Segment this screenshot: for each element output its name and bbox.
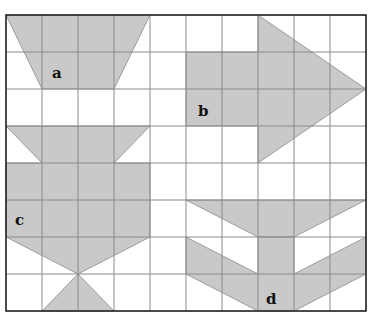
label-c: c (15, 211, 24, 229)
shape-d (186, 200, 366, 237)
grid-diagram: a b c d (0, 0, 368, 314)
label-d: d (266, 290, 277, 308)
label-b: b (198, 102, 209, 120)
label-a: a (52, 64, 62, 82)
